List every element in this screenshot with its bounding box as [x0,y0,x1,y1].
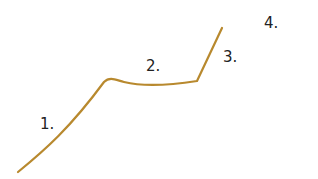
label-3: 3. [223,50,237,65]
diagram-canvas: 1. 2. 3. 4. [0,0,318,179]
label-2: 2. [146,59,160,74]
label-4: 4. [264,16,278,31]
label-1: 1. [40,117,54,132]
